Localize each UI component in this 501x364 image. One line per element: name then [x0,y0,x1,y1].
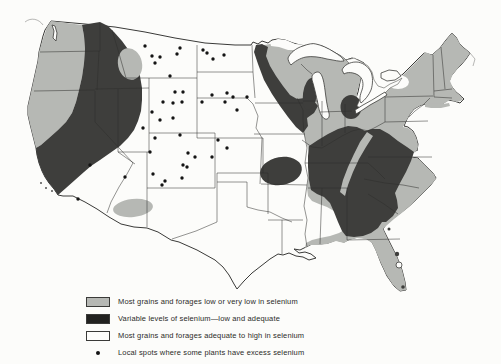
legend-swatch-low [86,297,110,307]
legend-dot-cell [86,351,110,355]
excess-selenium-spot [222,53,225,56]
excess-selenium-spot [186,151,189,154]
excess-selenium-spot [225,91,228,94]
excess-selenium-spot [150,110,153,113]
legend-label-excess: Local spots where some plants have exces… [118,348,304,357]
new-brunswick-outline [470,53,475,66]
legend: Most grains and forages low or very low … [86,295,466,363]
excess-selenium-spot [143,44,146,47]
excess-selenium-spot [205,51,208,54]
excess-selenium-spot [153,61,156,64]
excess-selenium-spot [210,155,213,158]
excess-selenium-spot [193,155,196,158]
excess-selenium-spot [235,108,238,111]
excess-selenium-spot [151,172,154,175]
excess-selenium-spot [231,95,234,98]
selenium-map-figure: Most grains and forages low or very low … [0,0,501,364]
excess-selenium-spot [168,74,171,77]
excess-selenium-spot [158,118,161,121]
excess-selenium-spot [225,146,228,149]
excess-selenium-spot [216,138,219,141]
channel-island [45,187,47,189]
excess-selenium-spot [181,90,184,93]
excess-selenium-spot [201,48,204,51]
excess-selenium-spot [163,179,166,182]
excess-selenium-spot [175,52,178,55]
excess-selenium-spot [180,100,183,103]
excess-selenium-spot [161,100,164,103]
excess-spot-icon [96,351,100,355]
excess-selenium-spot [171,116,174,119]
vancouver-island-outline [25,19,43,25]
region-variable-florida-fleck [395,252,399,256]
excess-selenium-spot [160,183,163,186]
excess-selenium-spot [210,93,213,96]
excess-selenium-spot [185,165,188,168]
legend-row-adequate: Most grains and forages adequate to high… [86,329,466,342]
excess-selenium-spot [223,100,226,103]
excess-selenium-spot [150,54,153,57]
excess-selenium-spot [211,57,214,60]
legend-row-low: Most grains and forages low or very low … [86,295,466,308]
lake-okeechobee [396,262,402,268]
excess-selenium-spot [181,163,184,166]
excess-selenium-spot [178,133,181,136]
excess-selenium-spot [180,176,183,179]
channel-island [40,182,42,184]
excess-selenium-spot [158,55,161,58]
region-variable-florida-fleck [388,228,391,231]
legend-label-variable: Variable levels of selenium—low and adeq… [118,314,280,323]
long-island [425,103,450,108]
excess-selenium-spot [171,101,174,104]
excess-selenium-spot [141,126,144,129]
legend-swatch-variable [86,314,110,324]
excess-selenium-spot [153,136,156,139]
legend-row-excess: Local spots where some plants have exces… [86,346,466,359]
excess-selenium-spot [200,100,203,103]
excess-selenium-spot [173,90,176,93]
legend-swatch-adequate [86,331,110,341]
legend-row-variable: Variable levels of selenium—low and adeq… [86,312,466,325]
excess-selenium-spot [148,150,151,153]
channel-island [51,190,53,192]
region-variable-florida-fleck [401,285,405,289]
legend-label-adequate: Most grains and forages adequate to high… [118,331,304,340]
excess-selenium-spot [76,197,79,200]
excess-selenium-spot [88,163,91,166]
legend-label-low: Most grains and forages low or very low … [118,297,298,306]
excess-selenium-spot [245,95,248,98]
excess-selenium-spot [123,175,126,178]
excess-selenium-spot [178,46,181,49]
